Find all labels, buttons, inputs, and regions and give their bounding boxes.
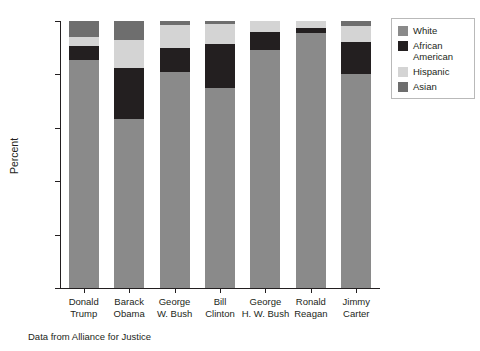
bar-segment xyxy=(114,40,144,68)
chart-caption: Data from Alliance for Justice xyxy=(28,331,151,342)
x-axis-tick xyxy=(265,289,266,293)
y-axis-tick xyxy=(55,181,60,182)
legend: WhiteAfrican AmericanHispanicAsian xyxy=(391,18,475,99)
x-axis-label-line: Jimmy xyxy=(319,296,393,308)
bar-segment xyxy=(296,28,326,33)
bar-segment xyxy=(114,119,144,288)
legend-item-label: African American xyxy=(413,40,469,62)
legend-item-label: Hispanic xyxy=(413,66,449,77)
bar-stack xyxy=(160,21,190,288)
legend-swatch-icon xyxy=(398,41,408,51)
bar-segment xyxy=(296,33,326,288)
bar-segment xyxy=(69,21,99,37)
legend-item[interactable]: Asian xyxy=(398,81,469,92)
x-axis-label: JimmyCarter xyxy=(319,296,393,319)
x-axis-tick xyxy=(175,289,176,293)
bar-segment xyxy=(114,21,144,40)
legend-swatch-icon xyxy=(398,82,408,92)
x-axis-tick xyxy=(356,289,357,293)
bar-segment xyxy=(160,25,190,48)
bar-segment xyxy=(341,21,371,26)
bar-segment xyxy=(160,21,190,25)
y-axis-tick xyxy=(55,74,60,75)
bar-segment xyxy=(205,44,235,88)
legend-item-label: White xyxy=(413,25,437,36)
bar-stack xyxy=(341,21,371,288)
x-axis-tick xyxy=(84,289,85,293)
bar-stack xyxy=(114,21,144,288)
stacked-bar-chart: 020406080100 Percent DonaldTrumpBarackOb… xyxy=(0,0,480,351)
y-axis-tick xyxy=(55,21,60,22)
bar-segment xyxy=(341,74,371,288)
bar-segment xyxy=(341,26,371,42)
bar-segment xyxy=(250,21,280,32)
bar-segment xyxy=(69,37,99,46)
legend-item[interactable]: Hispanic xyxy=(398,66,469,77)
legend-swatch-icon xyxy=(398,67,408,77)
bar-segment xyxy=(296,21,326,28)
bar-stack xyxy=(69,21,99,288)
legend-swatch-icon xyxy=(398,26,408,36)
bar-segment xyxy=(160,48,190,72)
bar-segment xyxy=(250,50,280,288)
bar-segment xyxy=(69,60,99,288)
bar-stack xyxy=(250,21,280,288)
x-axis-tick xyxy=(311,289,312,293)
legend-item[interactable]: White xyxy=(398,25,469,36)
plot-area xyxy=(61,21,379,288)
bar-segment xyxy=(341,42,371,74)
bar-stack xyxy=(296,21,326,288)
legend-item[interactable]: African American xyxy=(398,40,469,62)
bar-segment xyxy=(114,68,144,119)
bar-segment xyxy=(205,21,235,24)
bar-segment xyxy=(205,88,235,288)
x-axis-tick xyxy=(129,289,130,293)
y-axis-tick xyxy=(55,288,60,289)
bar-segment xyxy=(69,46,99,59)
x-axis-label-line: Carter xyxy=(319,308,393,320)
y-axis-tick xyxy=(55,235,60,236)
legend-item-label: Asian xyxy=(413,81,437,92)
y-axis-title: Percent xyxy=(8,106,20,206)
bar-stack xyxy=(205,21,235,288)
bar-segment xyxy=(205,24,235,44)
bar-segment xyxy=(160,72,190,288)
bar-segment xyxy=(250,32,280,51)
y-axis-tick xyxy=(55,128,60,129)
x-axis-tick xyxy=(220,289,221,293)
